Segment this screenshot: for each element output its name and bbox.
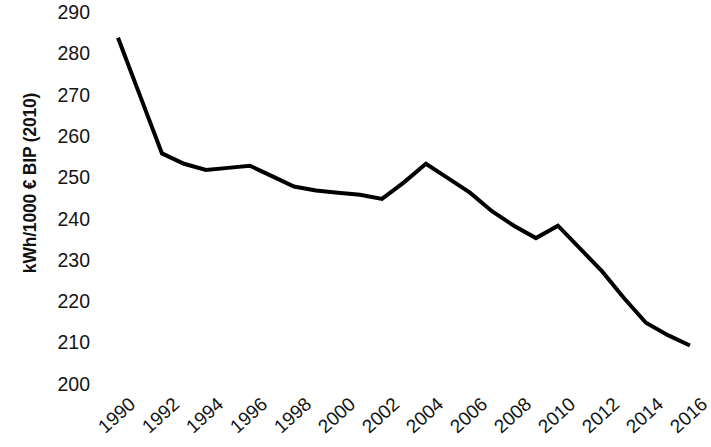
x-axis-tick-label: 1998 — [263, 394, 314, 443]
x-axis-tick-label: 2004 — [395, 394, 446, 443]
x-axis-tick-label: 2008 — [483, 394, 534, 443]
x-axis-tick-label: 2014 — [615, 394, 666, 443]
x-axis-tick-label: 1992 — [131, 394, 182, 443]
x-axis-tick-label: 2002 — [351, 394, 402, 443]
x-axis-tick-label: 1994 — [175, 394, 226, 443]
x-axis-tick-label: 2000 — [307, 394, 358, 443]
x-axis-tick-label: 2006 — [439, 394, 490, 443]
x-axis-tick-label: 2010 — [527, 394, 578, 443]
x-axis-tick-label: 2016 — [659, 394, 710, 443]
x-axis-tick-label: 2012 — [571, 394, 622, 443]
x-axis-tick-label: 1990 — [87, 394, 138, 443]
x-axis-tick-label: 1996 — [219, 394, 270, 443]
